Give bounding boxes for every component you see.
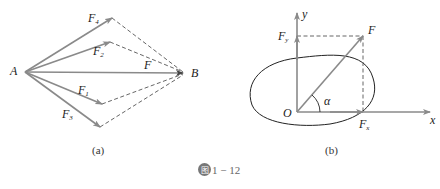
x-axis-label: x	[430, 114, 435, 126]
force-fy-label: Fy	[278, 30, 288, 44]
force-f2-label: F2	[93, 45, 104, 59]
y-axis-label: y	[302, 8, 307, 20]
point-b-label: B	[191, 67, 198, 79]
panel-a-caption: (a)	[92, 145, 104, 156]
figure-number: 1 − 12	[212, 164, 240, 176]
panel-b-caption: (b)	[325, 145, 338, 156]
figure-badge-icon: 图	[198, 163, 211, 176]
force-f3-label: F3	[62, 108, 73, 122]
force-f-arrow	[25, 72, 183, 73]
origin-label: O	[283, 107, 292, 119]
force-fx-label: Fx	[359, 118, 369, 132]
body-outline	[250, 55, 375, 125]
force-f4-label: F4	[88, 12, 99, 26]
panel-a-diagram	[25, 18, 183, 127]
angle-arc	[312, 95, 320, 112]
force-f1-arrow	[25, 72, 102, 104]
force-f-label-b: F	[368, 24, 375, 36]
point-a-label: A	[10, 65, 17, 77]
force-f1-label: F1	[78, 84, 89, 98]
figure-caption: 图 1 − 12	[198, 163, 240, 176]
angle-alpha-label: α	[324, 95, 330, 107]
force-f-label: F	[144, 59, 151, 71]
